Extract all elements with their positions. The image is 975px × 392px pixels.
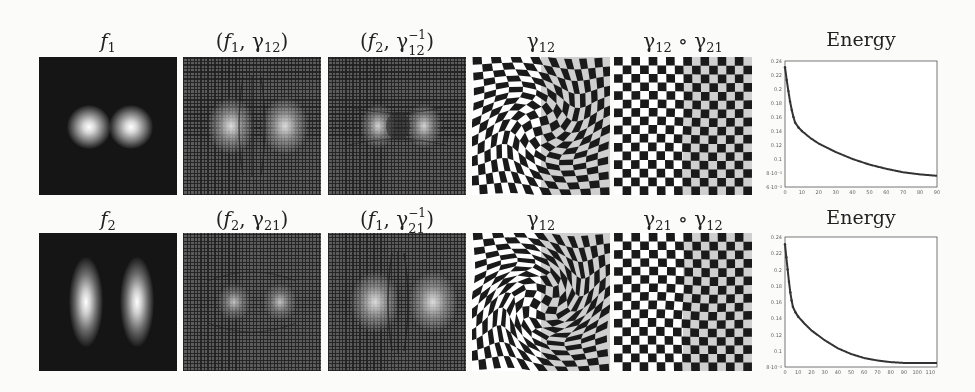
label-f2-sub: 2 (108, 218, 116, 233)
svg-text:0.14: 0.14 (771, 315, 782, 321)
svg-text:0.18: 0.18 (771, 100, 782, 106)
checkerboard-pattern (614, 57, 752, 195)
gamma: γ (643, 207, 655, 231)
sub: 1 (375, 218, 383, 233)
paren: ) (280, 29, 288, 53)
sub: 1 (231, 40, 239, 55)
checkerboard-gamma12-o-gamma21 (614, 57, 752, 195)
svg-text:0.24: 0.24 (771, 58, 782, 64)
svg-text:0.12: 0.12 (771, 142, 782, 148)
checkerboard-gamma21-o-gamma12 (614, 233, 752, 371)
energy-plot-2: 0.240.220.20.180.160.140.120.18·10⁻²0102… (760, 231, 945, 380)
svg-text:20: 20 (816, 189, 822, 195)
svg-text:0.22: 0.22 (771, 72, 782, 78)
label-f1-gamma12: (f1, γ12) (183, 30, 321, 59)
svg-text:0.2: 0.2 (774, 267, 782, 273)
checkerboard-gamma12 (472, 57, 610, 195)
gaussian-blob (109, 105, 153, 149)
svg-text:0.2: 0.2 (774, 86, 782, 92)
sub: 12 (539, 40, 556, 55)
svg-text:110: 110 (926, 369, 936, 375)
sub: 12 (655, 40, 672, 55)
label-gamma12: γ12 (472, 30, 610, 59)
gamma: , γ (384, 29, 409, 53)
label-f2-main: f (100, 207, 107, 231)
sub: 12 (264, 40, 281, 55)
image-f1-inverse-warped-grid (328, 233, 466, 371)
svg-text:70: 70 (874, 369, 880, 375)
gamma: γ (527, 207, 539, 231)
svg-text:60: 60 (883, 189, 889, 195)
energy-line-chart: 0.240.220.20.180.160.140.120.18·10⁻²6·10… (760, 55, 945, 195)
sub: 2 (375, 40, 383, 55)
image-f1-warped-grid (183, 57, 321, 195)
gaussian-blob (67, 105, 111, 149)
svg-text:80: 80 (917, 189, 923, 195)
paren: ) (426, 29, 434, 53)
svg-text:6·10⁻²: 6·10⁻² (766, 184, 782, 190)
sub: 21 (264, 218, 281, 233)
svg-text:10: 10 (799, 189, 805, 195)
svg-text:90: 90 (901, 369, 907, 375)
gamma: γ (527, 29, 539, 53)
svg-text:90: 90 (934, 189, 940, 195)
svg-text:8·10⁻²: 8·10⁻² (766, 364, 782, 370)
energy-plot-1: 0.240.220.20.180.160.140.120.18·10⁻²6·10… (760, 55, 945, 199)
image-f2-warped-grid (183, 233, 321, 371)
label-f1-sub: 1 (108, 40, 116, 55)
svg-text:60: 60 (861, 369, 867, 375)
gamma: , γ (239, 207, 264, 231)
paren: ( (216, 207, 224, 231)
compose: ∘ γ (672, 207, 706, 231)
f: f (224, 29, 231, 53)
svg-text:0: 0 (783, 189, 786, 195)
svg-text:80: 80 (888, 369, 894, 375)
svg-text:30: 30 (821, 369, 827, 375)
grid-distortion (328, 57, 466, 195)
image-f2-inverse-warped-grid (328, 57, 466, 195)
label-f1-main: f (100, 29, 107, 53)
grid-distortion (328, 233, 466, 371)
paren: ( (216, 29, 224, 53)
svg-text:0: 0 (783, 369, 786, 375)
plot-title-energy-2: Energy (781, 206, 941, 228)
grid-distortion (183, 57, 321, 195)
svg-text:70: 70 (900, 189, 906, 195)
svg-text:20: 20 (808, 369, 814, 375)
checkerboard-gamma12-row2 (472, 233, 610, 371)
label-f1: f1 (39, 30, 177, 59)
svg-text:0.18: 0.18 (771, 283, 782, 289)
sub: 21 (655, 218, 672, 233)
paren: ) (280, 207, 288, 231)
grid-distortion (183, 233, 321, 371)
svg-text:0.16: 0.16 (771, 114, 782, 120)
paren: ( (360, 29, 368, 53)
svg-text:10: 10 (795, 369, 801, 375)
f: f (224, 207, 231, 231)
sub: 12 (539, 218, 556, 233)
gamma: γ (643, 29, 655, 53)
svg-text:100: 100 (912, 369, 922, 375)
label-gamma12-o-gamma21: γ12 ∘ γ21 (614, 30, 752, 59)
image-f2-density (39, 233, 177, 371)
checkerboard-pattern (472, 57, 610, 195)
svg-text:0.1: 0.1 (774, 156, 782, 162)
image-f1-density (39, 57, 177, 195)
sub: 12 (706, 218, 723, 233)
paren: ( (360, 207, 368, 231)
sub: 2 (231, 218, 239, 233)
compose: ∘ γ (672, 29, 706, 53)
svg-text:8·10⁻²: 8·10⁻² (766, 170, 782, 176)
svg-text:50: 50 (848, 369, 854, 375)
paren: ) (426, 207, 434, 231)
supsub: −121 (408, 216, 426, 226)
energy-line-chart: 0.240.220.20.180.160.140.120.18·10⁻²0102… (760, 231, 945, 376)
svg-text:0.22: 0.22 (771, 250, 782, 256)
svg-text:40: 40 (835, 369, 841, 375)
svg-text:0.24: 0.24 (771, 234, 782, 240)
gaussian-blob (69, 257, 103, 347)
svg-text:0.1: 0.1 (774, 348, 782, 354)
sub: 21 (706, 40, 723, 55)
gaussian-blob (120, 257, 154, 347)
svg-text:50: 50 (866, 189, 872, 195)
